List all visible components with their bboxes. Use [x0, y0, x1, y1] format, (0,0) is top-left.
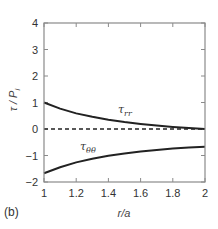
plot-frame — [44, 23, 205, 182]
y-tick-label: 0 — [32, 123, 38, 135]
axis-ticks — [44, 23, 205, 182]
series-line — [44, 147, 205, 174]
y-tick-label: 4 — [32, 17, 38, 29]
x-tick-label: 1.2 — [69, 187, 84, 199]
panel-label: (b) — [4, 205, 19, 219]
tick-labels: 11.21.41.61.82−2−101234 — [25, 17, 208, 199]
y-tick-label: 3 — [32, 44, 38, 56]
x-tick-label: 1.4 — [101, 187, 116, 199]
series-label-tau-rr: τrr — [118, 103, 133, 118]
x-tick-label: 1 — [41, 187, 47, 199]
x-tick-label: 1.6 — [133, 187, 148, 199]
y-tick-label: −1 — [25, 150, 38, 162]
series-label-tau-thetatheta: τθθ — [80, 140, 96, 155]
x-tick-label: 1.8 — [165, 187, 180, 199]
y-tick-label: −2 — [25, 176, 38, 188]
y-tick-label: 2 — [32, 70, 38, 82]
stress-chart: 11.21.41.61.82−2−101234 τrr τθθ r/a τ / … — [0, 0, 218, 229]
y-tick-label: 1 — [32, 97, 38, 109]
y-axis-label: τ / Pi — [7, 89, 22, 112]
x-tick-label: 2 — [202, 187, 208, 199]
x-axis-label: r/a — [118, 207, 131, 219]
